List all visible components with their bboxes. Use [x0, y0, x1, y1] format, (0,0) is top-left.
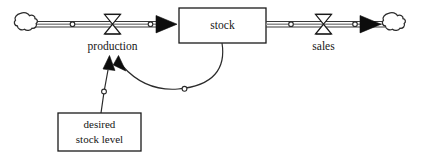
- desired-stock-level-label-line1: desired: [84, 118, 116, 130]
- stock-flow-diagram: stock production sales desired stock lev…: [0, 0, 422, 164]
- inflow-handle-dot-2[interactable]: [148, 22, 153, 27]
- inflow-arrowhead: [156, 16, 177, 33]
- desired-link-arrowhead: [103, 56, 115, 71]
- diagram-canvas: stock production sales desired stock lev…: [0, 0, 422, 164]
- sink-cloud-icon[interactable]: [382, 13, 405, 31]
- inflow-handle-dot[interactable]: [70, 22, 75, 27]
- desired-link-handle-dot[interactable]: [102, 89, 107, 94]
- stock-link-arrowhead: [113, 56, 126, 72]
- desired-stock-level-label-line2: stock level: [76, 133, 123, 145]
- source-cloud-icon[interactable]: [14, 13, 37, 31]
- stock-label: stock: [210, 19, 235, 31]
- stock-link-handle-dot[interactable]: [182, 86, 187, 91]
- desired-stock-level-to-production-link[interactable]: [101, 56, 115, 114]
- outflow-arrowhead: [360, 16, 381, 33]
- outflow-handle-dot[interactable]: [289, 22, 294, 27]
- outflow-handle-dot-2[interactable]: [353, 22, 358, 27]
- production-label: production: [88, 40, 138, 53]
- sales-label: sales: [312, 40, 335, 52]
